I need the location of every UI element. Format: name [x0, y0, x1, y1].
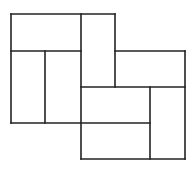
rectangle-tiling-diagram — [0, 0, 195, 171]
diagram-lines — [11, 14, 185, 159]
